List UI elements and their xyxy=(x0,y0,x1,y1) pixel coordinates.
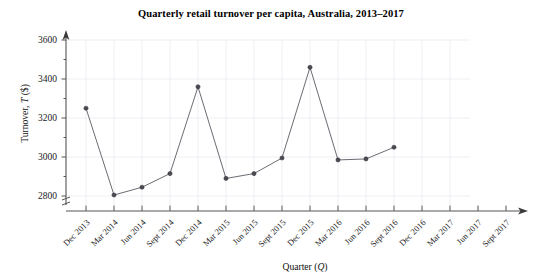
y-axis-title-prefix: Turnover, xyxy=(19,103,30,143)
x-tick-label: Mar 2017 xyxy=(425,217,456,248)
data-point-marker xyxy=(280,156,284,160)
data-point-marker xyxy=(112,193,116,197)
chart-plot-area: 28003000320034003600 Dec 2013Mar 2014Jun… xyxy=(0,0,542,280)
x-tick-label: Sept 2014 xyxy=(144,217,176,249)
x-axis-title: Quarter (Q) xyxy=(205,261,405,272)
x-tick-label: Dec 2015 xyxy=(285,217,316,248)
data-point-marker xyxy=(308,65,312,69)
y-tick-label: 3000 xyxy=(38,152,57,162)
gridlines xyxy=(66,40,470,205)
axes xyxy=(62,30,528,214)
x-tick-label: Sept 2017 xyxy=(480,217,512,249)
data-point-marker xyxy=(224,176,228,180)
data-point-marker xyxy=(140,185,144,189)
y-tick-label: 3200 xyxy=(38,113,57,123)
x-axis-tick-labels: Dec 2013Mar 2014Jun 2014Sept 2014Dec 201… xyxy=(61,217,512,249)
x-tick-label: Sept 2016 xyxy=(368,217,400,249)
y-axis-ticks xyxy=(62,40,67,196)
data-point-marker xyxy=(336,158,340,162)
chart-page: Quarterly retail turnover per capita, Au… xyxy=(0,0,542,280)
data-point-marker xyxy=(196,85,200,89)
y-axis-title: Turnover, T ($) xyxy=(19,49,30,179)
x-tick-label: Mar 2014 xyxy=(89,217,120,248)
data-point-marker xyxy=(168,171,172,175)
x-axis-ticks xyxy=(86,206,506,212)
y-tick-label: 3600 xyxy=(38,35,57,45)
x-tick-label: Mar 2015 xyxy=(201,217,232,248)
y-axis-title-symbol: T xyxy=(19,98,30,103)
x-tick-label: Dec 2014 xyxy=(173,217,204,248)
x-tick-label: Dec 2013 xyxy=(61,217,92,248)
y-axis-tick-labels: 28003000320034003600 xyxy=(38,35,57,201)
data-series-line xyxy=(86,67,394,195)
data-point-marker xyxy=(84,106,88,110)
x-tick-label: Dec 2016 xyxy=(397,217,428,248)
x-axis-title-suffix: ) xyxy=(324,261,327,272)
y-axis-title-suffix: ($) xyxy=(19,84,30,98)
x-tick-label: Sept 2015 xyxy=(256,217,288,249)
y-tick-label: 3400 xyxy=(38,74,57,84)
data-point-marker xyxy=(252,171,256,175)
x-axis-title-prefix: Quarter ( xyxy=(282,261,317,272)
data-point-markers xyxy=(84,65,396,197)
data-point-marker xyxy=(392,145,396,149)
y-tick-label: 2800 xyxy=(38,191,57,201)
x-tick-label: Mar 2016 xyxy=(313,217,344,248)
series-polyline xyxy=(86,67,394,195)
data-point-marker xyxy=(364,157,368,161)
